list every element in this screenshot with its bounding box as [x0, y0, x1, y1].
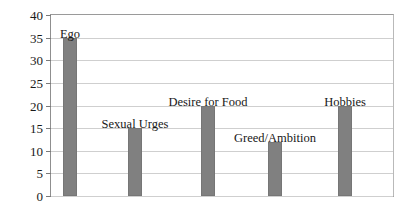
bar-desire-for-food	[201, 106, 215, 197]
tick-mark-5	[46, 173, 51, 174]
tick-mark-30	[46, 60, 51, 61]
bar-sexual-urges	[128, 128, 142, 196]
gridline-30	[51, 60, 393, 61]
plot-area: 0 5 10 15 20 25 30	[50, 14, 394, 197]
gridline-25	[51, 83, 393, 84]
tick-mark-40	[46, 15, 51, 16]
y-axis-label-15: 15	[30, 122, 43, 135]
tick-mark-20	[46, 106, 51, 107]
y-axis-label-35: 35	[30, 31, 43, 44]
tick-mark-25	[46, 83, 51, 84]
bar-greed-ambition	[268, 142, 282, 196]
bar-label-sexual-urges: Sexual Urges	[102, 118, 169, 131]
gridline-35	[51, 38, 393, 39]
tick-mark-15	[46, 128, 51, 129]
bar-label-hobbies: Hobbies	[324, 96, 366, 109]
gridline-0	[51, 196, 393, 197]
y-axis-label-0: 0	[37, 190, 44, 203]
tick-mark-35	[46, 38, 51, 39]
bar-hobbies	[338, 106, 352, 197]
y-axis-label-40: 40	[30, 9, 43, 22]
tick-mark-0	[46, 196, 51, 197]
bar-ego	[63, 38, 77, 196]
y-axis-label-25: 25	[30, 76, 43, 89]
y-axis-label-20: 20	[30, 99, 43, 112]
bar-label-ego: Ego	[60, 28, 80, 41]
bar-label-desire-for-food: Desire for Food	[168, 96, 247, 109]
y-axis-label-30: 30	[30, 54, 43, 67]
bar-label-greed-ambition: Greed/Ambition	[234, 132, 316, 145]
tick-mark-10	[46, 151, 51, 152]
bar-chart: 0 5 10 15 20 25 30	[0, 0, 398, 219]
y-axis-label-10: 10	[30, 144, 43, 157]
y-axis-label-5: 5	[37, 167, 44, 180]
